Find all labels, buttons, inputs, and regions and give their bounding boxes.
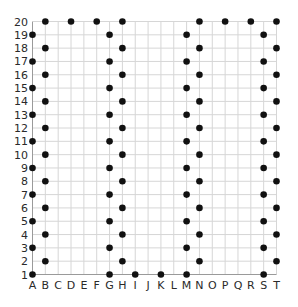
x-tick-label: B: [42, 279, 50, 292]
data-point-dot: [158, 271, 165, 278]
y-axis-tick-labels: 1234567891011121314151617181920: [14, 16, 28, 282]
data-point-dot: [260, 271, 267, 278]
x-tick-label: H: [118, 279, 126, 292]
data-point-dot: [93, 18, 100, 25]
data-point-dot: [106, 138, 113, 145]
y-tick-label: 2: [21, 255, 28, 268]
data-point-dot: [106, 32, 113, 39]
data-point-dot: [260, 191, 267, 198]
data-point-dot: [29, 58, 36, 65]
data-point-dot: [119, 98, 126, 105]
data-point-dot: [273, 205, 280, 212]
data-point-dot: [196, 125, 203, 132]
data-point-dot: [119, 151, 126, 158]
data-point-dot: [42, 18, 49, 25]
data-point-dot: [106, 218, 113, 225]
data-point-dot: [183, 58, 190, 65]
data-point-dot: [42, 151, 49, 158]
data-point-dot: [183, 245, 190, 252]
y-tick-label: 9: [21, 162, 28, 175]
data-point-dot: [29, 191, 36, 198]
y-tick-label: 3: [21, 242, 28, 255]
data-point-dot: [68, 18, 75, 25]
y-tick-label: 7: [21, 189, 28, 202]
data-point-dot: [196, 178, 203, 185]
data-point-dot: [183, 111, 190, 118]
data-point-dot: [119, 231, 126, 238]
y-tick-label: 5: [21, 215, 28, 228]
data-point-dot: [273, 125, 280, 132]
x-tick-label: C: [54, 279, 62, 292]
data-point-dot: [196, 98, 203, 105]
data-point-dot: [196, 45, 203, 52]
data-point-dot: [222, 18, 229, 25]
y-tick-label: 17: [14, 55, 28, 68]
x-tick-label: J: [145, 279, 149, 292]
data-point-dot: [183, 32, 190, 39]
data-point-dot: [42, 45, 49, 52]
data-point-dot: [106, 245, 113, 252]
data-point-dot: [183, 85, 190, 92]
data-point-dot: [183, 218, 190, 225]
data-point-dot: [260, 138, 267, 145]
data-point-dot: [260, 85, 267, 92]
data-points: [29, 18, 280, 278]
data-point-dot: [106, 271, 113, 278]
data-point-dot: [119, 18, 126, 25]
data-point-dot: [273, 18, 280, 25]
data-point-dot: [260, 58, 267, 65]
data-point-dot: [196, 205, 203, 212]
data-point-dot: [29, 245, 36, 252]
y-tick-label: 12: [14, 122, 28, 135]
y-tick-label: 15: [14, 82, 28, 95]
data-point-dot: [119, 205, 126, 212]
x-tick-label: A: [29, 279, 37, 292]
data-point-dot: [196, 231, 203, 238]
data-point-dot: [273, 98, 280, 105]
data-point-dot: [273, 178, 280, 185]
dot-grid-chart: ABCDEFGHIJKLMNOPQRST 1234567891011121314…: [0, 0, 298, 307]
data-point-dot: [132, 271, 139, 278]
data-point-dot: [106, 85, 113, 92]
x-tick-label: Q: [234, 279, 243, 292]
data-point-dot: [196, 258, 203, 265]
data-point-dot: [29, 165, 36, 172]
y-tick-label: 6: [21, 202, 28, 215]
data-point-dot: [196, 151, 203, 158]
data-point-dot: [42, 125, 49, 132]
data-point-dot: [260, 165, 267, 172]
data-point-dot: [29, 85, 36, 92]
axes: [33, 22, 277, 275]
data-point-dot: [42, 71, 49, 78]
x-tick-label: I: [134, 279, 137, 292]
data-point-dot: [42, 231, 49, 238]
data-point-dot: [29, 271, 36, 278]
y-tick-label: 13: [14, 109, 28, 122]
data-point-dot: [273, 231, 280, 238]
y-tick-label: 16: [14, 69, 28, 82]
data-point-dot: [183, 165, 190, 172]
data-point-dot: [106, 58, 113, 65]
data-point-dot: [260, 111, 267, 118]
data-point-dot: [119, 178, 126, 185]
y-tick-label: 10: [14, 149, 28, 162]
data-point-dot: [248, 18, 255, 25]
data-point-dot: [106, 111, 113, 118]
x-tick-label: R: [247, 279, 255, 292]
data-point-dot: [106, 165, 113, 172]
data-point-dot: [42, 178, 49, 185]
x-tick-label: O: [208, 279, 217, 292]
data-point-dot: [273, 151, 280, 158]
data-point-dot: [260, 245, 267, 252]
data-point-dot: [42, 258, 49, 265]
data-point-dot: [42, 98, 49, 105]
y-tick-label: 4: [21, 229, 28, 242]
x-tick-label: D: [67, 279, 75, 292]
data-point-dot: [273, 258, 280, 265]
x-tick-label: L: [171, 279, 178, 292]
x-tick-label: M: [182, 279, 192, 292]
data-point-dot: [29, 32, 36, 39]
data-point-dot: [273, 45, 280, 52]
y-tick-label: 8: [21, 175, 28, 188]
x-tick-label: T: [272, 279, 280, 292]
